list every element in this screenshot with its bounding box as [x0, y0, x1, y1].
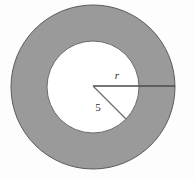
- inner-circle: [47, 41, 139, 133]
- annulus-diagram: r 5: [0, 0, 194, 180]
- outer-radius-label: r: [115, 69, 120, 81]
- figure-container: r 5: [0, 0, 194, 180]
- inner-radius-label: 5: [95, 101, 101, 113]
